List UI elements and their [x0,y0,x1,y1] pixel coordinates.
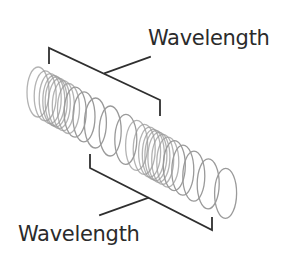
bottom-wavelength-label: Wavelength [18,222,140,246]
coil-loop [99,106,121,156]
coil-loop [64,87,86,137]
coil-loop [84,98,106,148]
spring-coil [27,67,237,218]
top-wavelength-label: Wavelength [148,26,270,50]
